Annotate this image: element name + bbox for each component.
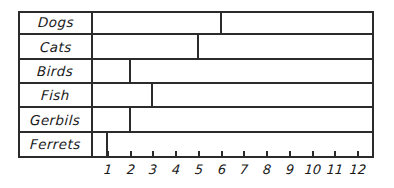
x-axis-tick-label: 4 bbox=[164, 163, 189, 176]
bar bbox=[93, 35, 199, 59]
category-label-cell: Dogs bbox=[18, 11, 93, 35]
label-column-divider bbox=[91, 11, 93, 35]
label-column-divider bbox=[91, 35, 93, 59]
x-axis-tick-label: 11 bbox=[323, 163, 348, 176]
label-column-divider bbox=[91, 108, 93, 132]
category-label-cell: Ferrets bbox=[18, 133, 93, 157]
bar bbox=[93, 108, 131, 132]
category-label: Cats bbox=[39, 41, 71, 55]
category-label: Fish bbox=[41, 89, 70, 103]
chart-rows: DogsCatsBirdsFishGerbilsFerrets bbox=[18, 11, 374, 157]
category-label: Dogs bbox=[37, 16, 74, 30]
x-axis-tick-label: 1 bbox=[95, 163, 120, 176]
chart-row: Cats bbox=[18, 35, 374, 59]
label-column-divider bbox=[91, 84, 93, 108]
x-axis-tick-label: 10 bbox=[300, 163, 325, 176]
category-label: Ferrets bbox=[30, 138, 81, 152]
label-column-divider bbox=[91, 60, 93, 84]
chart-row: Gerbils bbox=[18, 108, 374, 132]
bar bbox=[93, 84, 153, 108]
x-axis-tick-label: 9 bbox=[277, 163, 302, 176]
bar bbox=[93, 60, 131, 84]
x-axis-tick-label: 5 bbox=[186, 163, 211, 176]
x-axis-tick-label: 6 bbox=[209, 163, 234, 176]
bar bbox=[93, 11, 222, 35]
label-column-divider bbox=[91, 133, 93, 157]
category-label-cell: Fish bbox=[18, 84, 93, 108]
category-label-cell: Gerbils bbox=[18, 108, 93, 132]
bar bbox=[93, 133, 108, 157]
chart-row: Ferrets bbox=[18, 133, 374, 157]
category-label: Gerbils bbox=[30, 114, 81, 128]
category-label: Birds bbox=[37, 65, 74, 79]
x-axis-tick-label: 12 bbox=[345, 163, 370, 176]
x-axis-tick-label: 3 bbox=[141, 163, 166, 176]
chart-row: Fish bbox=[18, 84, 374, 108]
bar-chart: DogsCatsBirdsFishGerbilsFerrets 12345678… bbox=[0, 0, 394, 188]
chart-row: Dogs bbox=[18, 11, 374, 35]
x-axis-tick-label: 7 bbox=[232, 163, 257, 176]
x-axis-tick-label: 2 bbox=[118, 163, 143, 176]
category-label-cell: Cats bbox=[18, 35, 93, 59]
category-label-cell: Birds bbox=[18, 60, 93, 84]
chart-row: Birds bbox=[18, 60, 374, 84]
x-axis-tick-label: 8 bbox=[255, 163, 280, 176]
